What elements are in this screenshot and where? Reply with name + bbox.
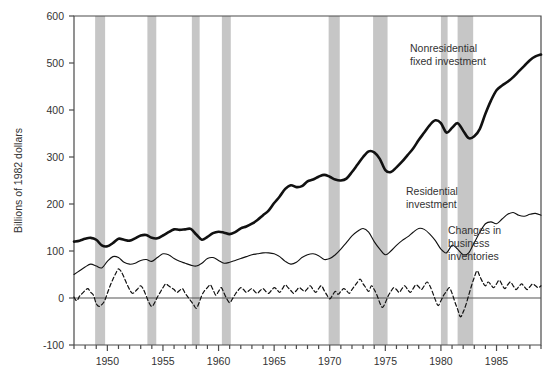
x-tick-label: 1950 xyxy=(96,355,120,367)
recession-band-3 xyxy=(222,16,231,345)
inventories-label-line-2: inventories xyxy=(448,250,499,262)
chart-canvas: 6005004003002001000-100 1950195519601965… xyxy=(0,0,554,378)
recession-band-5 xyxy=(373,16,387,345)
inventories-label-line-0: Changes in xyxy=(448,224,501,236)
nonresidential-label: Nonresidentialfixed investment xyxy=(410,42,486,67)
y-tick-label: 300 xyxy=(46,151,64,163)
x-axis-ticks xyxy=(74,345,541,351)
y-tick-label: 400 xyxy=(46,104,64,116)
y-axis-title: Billions of 1982 dollars xyxy=(12,128,24,233)
x-tick-label: 1960 xyxy=(207,355,231,367)
y-tick-label: 600 xyxy=(46,10,64,22)
nonresidential-label-line-0: Nonresidential xyxy=(410,42,477,54)
residential-label-line-1: investment xyxy=(406,198,457,210)
residential-label-line-0: Residential xyxy=(406,185,458,197)
investment-chart: 6005004003002001000-100 1950195519601965… xyxy=(0,0,554,378)
x-tick-label: 1970 xyxy=(318,355,342,367)
recession-band-2 xyxy=(192,16,200,345)
x-tick-label: 1975 xyxy=(374,355,398,367)
x-tick-label: 1965 xyxy=(262,355,286,367)
series-annotations: Nonresidentialfixed investmentResidentia… xyxy=(406,42,501,262)
y-tick-label: 0 xyxy=(58,292,64,304)
x-axis-tick-labels: 19501955196019651970197519801985 xyxy=(96,355,509,367)
inventories-label: Changes inbusinessinventories xyxy=(448,224,501,262)
y-tick-label: 500 xyxy=(46,57,64,69)
recession-band-1 xyxy=(147,16,156,345)
y-axis-title-text: Billions of 1982 dollars xyxy=(12,128,24,233)
x-tick-label: 1985 xyxy=(485,355,509,367)
recession-band-0 xyxy=(95,16,105,345)
y-tick-label: -100 xyxy=(43,339,64,351)
y-tick-label: 100 xyxy=(46,245,64,257)
x-tick-label: 1955 xyxy=(151,355,175,367)
y-axis-tick-labels: 6005004003002001000-100 xyxy=(43,10,64,351)
y-axis-ticks xyxy=(69,16,74,345)
nonresidential-label-line-1: fixed investment xyxy=(410,55,486,67)
y-tick-label: 200 xyxy=(46,198,64,210)
inventories-label-line-1: business xyxy=(448,237,489,249)
residential-label: Residentialinvestment xyxy=(406,185,458,210)
x-tick-label: 1980 xyxy=(429,355,453,367)
